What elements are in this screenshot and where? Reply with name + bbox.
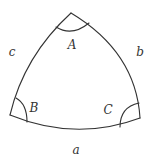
side-label-b: b	[136, 46, 144, 58]
angle-a-arc	[56, 23, 89, 31]
side-label-c: c	[9, 46, 16, 58]
angle-label-b: B	[30, 102, 39, 114]
angle-label-a: A	[68, 39, 77, 51]
side-label-a: a	[72, 144, 79, 156]
spherical-triangle-svg	[0, 0, 150, 161]
spherical-triangle-diagram: A B C a b c	[0, 0, 150, 161]
angle-label-c: C	[103, 104, 112, 116]
